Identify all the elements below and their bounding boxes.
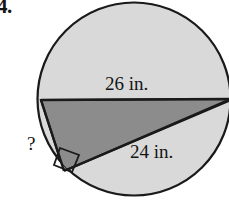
chord-length-label: 26 in. (105, 74, 148, 93)
geometry-figure: 4. 26 in. 24 in. ? (0, 0, 229, 216)
chord-line-26 (41, 99, 229, 100)
leg-length-label: 24 in. (130, 142, 173, 161)
circle-triangle-diagram (0, 0, 229, 216)
unknown-length-label: ? (27, 134, 35, 153)
